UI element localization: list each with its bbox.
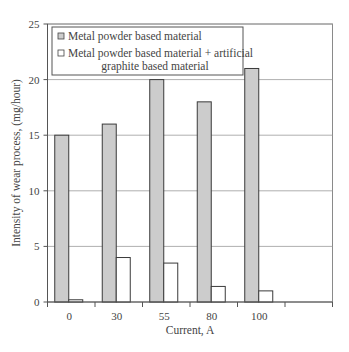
bar-metal-powder-graphite (211, 286, 225, 302)
y-tick-label: 15 (29, 129, 41, 141)
y-axis-tick-labels: 0510152025 (29, 18, 41, 308)
y-tick-label: 25 (29, 18, 41, 30)
legend-label-metal-powder-graphite: Metal powder based material + artificial (68, 47, 253, 60)
bar-metal-powder-graphite (259, 291, 273, 302)
bar-chart: 0510152025 0305580100 Current, A Intensi… (0, 0, 349, 352)
x-tick-label: 30 (111, 310, 123, 322)
x-tick-label: 80 (206, 310, 218, 322)
x-axis-title: Current, A (166, 324, 215, 337)
y-tick-label: 10 (29, 185, 41, 197)
legend-swatch-metal-powder (58, 33, 64, 39)
legend-swatch-metal-powder-graphite (58, 50, 64, 56)
y-axis-title: Intensity of wear process, (mg/hour) (10, 79, 23, 247)
x-axis-tick-labels: 0305580100 (67, 310, 269, 322)
x-tick-label: 55 (159, 310, 171, 322)
y-tick-label: 0 (34, 296, 40, 308)
bar-metal-powder (150, 80, 164, 302)
legend: Metal powder based materialMetal powder … (52, 27, 253, 75)
bar-metal-powder-graphite (116, 258, 130, 302)
legend-label-metal-powder-graphite-line2: graphite based material (101, 60, 208, 73)
legend-label-metal-powder: Metal powder based material (68, 30, 202, 43)
y-tick-label: 5 (34, 240, 40, 252)
bar-metal-powder (102, 124, 116, 302)
x-tick-label: 0 (67, 310, 73, 322)
y-tick-label: 20 (29, 74, 41, 86)
bar-metal-powder-graphite (164, 263, 178, 302)
x-tick-label: 100 (251, 310, 268, 322)
bar-metal-powder (245, 68, 259, 302)
bar-metal-powder (55, 135, 69, 302)
bar-metal-powder (197, 102, 211, 302)
